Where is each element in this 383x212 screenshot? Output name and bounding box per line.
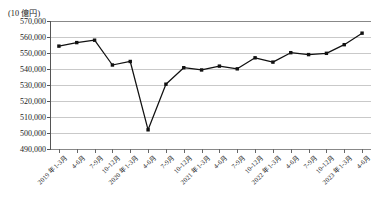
data-point [111,63,114,66]
data-point [307,53,310,56]
x-axis-tick-label: 4-6月 [282,152,301,171]
line-chart: (10 億円) 570,000560,000550,000540,000530,… [0,0,383,212]
data-point [146,128,149,131]
data-point [236,67,239,70]
data-point [182,66,185,69]
y-axis-tick-label: 530,000 [20,81,46,90]
data-point [289,51,292,54]
y-axis-tick-label: 570,000 [20,17,46,26]
y-axis-tick-label: 490,000 [20,145,46,154]
data-point [360,31,363,34]
x-axis-tick-label: 4-6月 [68,152,87,171]
y-axis-tick-label: 560,000 [20,33,46,42]
y-axis-tick-label: 510,000 [20,113,46,122]
y-axis-tick-label: 500,000 [20,129,46,138]
data-point [164,83,167,86]
data-point [218,64,221,67]
y-axis-tick-label: 520,000 [20,97,46,106]
data-point [325,52,328,55]
x-axis-labels: 2019 年1-3月4-6月7-9月10-12月2020 年1-3月4-6月7-… [50,152,371,212]
data-point [200,68,203,71]
data-point [343,43,346,46]
y-axis-tick-label: 550,000 [20,49,46,58]
data-point [75,41,78,44]
data-point [129,60,132,63]
data-point [253,56,256,59]
x-axis-tick-label: 4-6月 [211,152,230,171]
x-axis-tick-label: 4-6月 [140,152,159,171]
series-layer [50,21,371,149]
series-markers [57,31,364,131]
data-point [93,39,96,42]
x-axis-tick-label: 4-6月 [354,152,373,171]
series-line [59,33,362,130]
y-axis-tick-label: 540,000 [20,65,46,74]
data-point [271,60,274,63]
data-point [57,44,60,47]
